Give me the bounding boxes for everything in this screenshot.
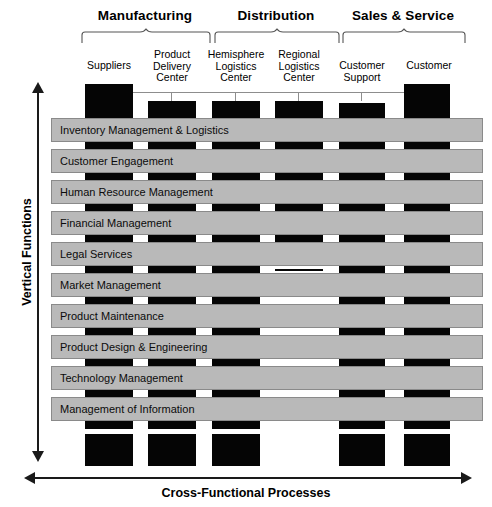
column-caption-customer: Customer bbox=[398, 60, 460, 72]
group-label-manufacturing: Manufacturing bbox=[78, 8, 212, 23]
function-row[interactable]: Technology Management bbox=[51, 366, 483, 390]
column-block-top-suppliers bbox=[85, 84, 133, 118]
function-row-label: Management of Information bbox=[60, 403, 195, 415]
function-row-label: Customer Engagement bbox=[60, 155, 173, 167]
function-row-label: Inventory Management & Logistics bbox=[60, 124, 229, 136]
function-row-label: Product Design & Engineering bbox=[60, 341, 207, 353]
band-segment bbox=[339, 421, 385, 429]
brace-manufacturing bbox=[80, 28, 212, 44]
column-block-top-product-delivery-center bbox=[148, 101, 196, 118]
column-caption-product-delivery-center: Product Delivery Center bbox=[142, 49, 202, 84]
band-segment bbox=[212, 421, 260, 429]
function-row[interactable]: Product Design & Engineering bbox=[51, 335, 483, 359]
vertical-axis-arrow-up bbox=[32, 82, 44, 93]
connector-stub-4 bbox=[298, 92, 299, 101]
function-row[interactable]: Product Maintenance bbox=[51, 304, 483, 328]
horizontal-axis-arrow-right bbox=[461, 472, 472, 484]
band-segment bbox=[85, 421, 133, 429]
function-row[interactable]: Human Resource Management bbox=[51, 180, 483, 204]
vertical-axis-line bbox=[37, 92, 39, 452]
column-block-bottom-customer-support bbox=[339, 434, 385, 466]
function-row-label: Technology Management bbox=[60, 372, 183, 384]
column-caption-regional-logistics-center: Regional Logistics Center bbox=[268, 49, 330, 84]
org-matrix-diagram: Manufacturing Distribution Sales & Servi… bbox=[0, 0, 492, 507]
column-block-bottom-hemisphere-logistics-center bbox=[212, 434, 260, 466]
column-block-top-customer bbox=[404, 84, 450, 118]
column-block-bottom-customer bbox=[404, 434, 450, 466]
column-caption-hemisphere-logistics-center: Hemisphere Logistics Center bbox=[200, 49, 272, 84]
horizontal-axis-arrow-left bbox=[24, 472, 35, 484]
function-row[interactable]: Customer Engagement bbox=[51, 149, 483, 173]
function-row[interactable]: Legal Services bbox=[51, 242, 483, 266]
function-row[interactable]: Management of Information bbox=[51, 397, 483, 421]
column-block-bottom-suppliers bbox=[85, 434, 133, 466]
column-block-top-customer-support bbox=[339, 103, 385, 118]
function-row-label: Legal Services bbox=[60, 248, 132, 260]
connector-stub-3 bbox=[235, 92, 236, 101]
column-caption-suppliers: Suppliers bbox=[78, 60, 140, 72]
group-label-distribution: Distribution bbox=[212, 8, 340, 23]
function-row-label: Financial Management bbox=[60, 217, 171, 229]
group-label-sales-service: Sales & Service bbox=[340, 8, 466, 23]
column-block-top-hemisphere-logistics-center bbox=[212, 101, 260, 118]
column-block-bottom-product-delivery-center bbox=[148, 434, 196, 466]
horizontal-axis-line bbox=[33, 477, 465, 479]
function-row-label: Market Management bbox=[60, 279, 161, 291]
function-row[interactable]: Financial Management bbox=[51, 211, 483, 235]
column-block-top-regional-logistics-center bbox=[275, 101, 323, 118]
function-row[interactable]: Market Management bbox=[51, 273, 483, 297]
horizontal-axis-label: Cross-Functional Processes bbox=[0, 486, 492, 500]
connector-stub-2 bbox=[171, 92, 172, 101]
function-row-label: Human Resource Management bbox=[60, 186, 213, 198]
column-caption-customer-support: Customer Support bbox=[330, 60, 394, 83]
vertical-axis-arrow-down bbox=[32, 451, 44, 462]
band-segment bbox=[148, 421, 196, 429]
connector-stub-5 bbox=[361, 92, 362, 101]
function-row[interactable]: Inventory Management & Logistics bbox=[51, 118, 483, 142]
brace-distribution bbox=[213, 28, 341, 44]
connector-rail bbox=[133, 92, 404, 93]
function-row-label: Product Maintenance bbox=[60, 310, 164, 322]
brace-sales-service bbox=[341, 28, 467, 44]
band-segment bbox=[404, 421, 450, 429]
vertical-axis-label: Vertical Functions bbox=[20, 177, 34, 327]
